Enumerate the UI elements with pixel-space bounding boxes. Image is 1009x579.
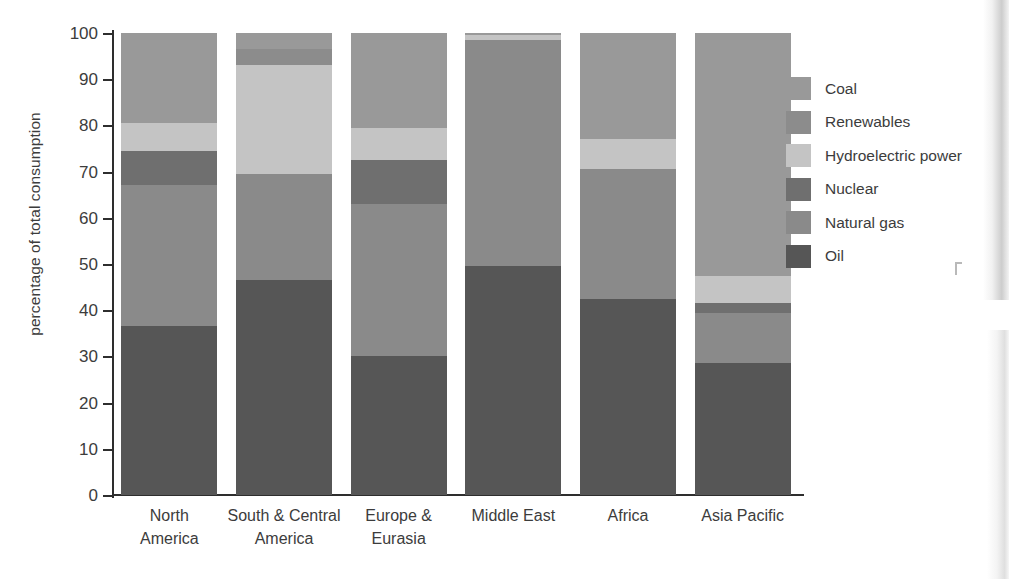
bar-segment-natural-gas	[236, 174, 332, 280]
bar-segment-coal	[580, 33, 676, 139]
y-axis-tick-label: 90	[79, 71, 98, 88]
y-axis-tick-mark	[103, 310, 112, 312]
bar-segment-coal	[695, 33, 791, 276]
x-axis-label-line: Asia Pacific	[668, 504, 818, 527]
legend-label: Nuclear	[825, 180, 878, 198]
legend-swatch-icon	[786, 77, 811, 100]
legend-swatch-icon	[786, 178, 811, 201]
y-axis-tick-mark	[103, 403, 112, 405]
bar-segment-natural-gas	[695, 313, 791, 364]
y-axis-tick-label: 50	[79, 256, 98, 273]
x-axis-label: Asia Pacific	[668, 504, 818, 527]
x-axis-label-line: Eurasia	[324, 527, 474, 550]
bar-segment-oil	[580, 299, 676, 495]
y-axis-tick-mark	[103, 125, 112, 127]
y-axis-tick-label: 40	[79, 302, 98, 319]
bar-segment-oil	[351, 356, 447, 495]
legend-swatch-icon	[786, 144, 811, 167]
legend-label: Renewables	[825, 113, 910, 131]
legend-label: Hydroelectric power	[825, 147, 962, 165]
legend-label: Oil	[825, 247, 844, 265]
bar-segment-oil	[121, 326, 217, 495]
bar-africa	[580, 33, 676, 495]
bar-north-america	[121, 33, 217, 495]
bar-segment-hydroelectric-power	[236, 65, 332, 174]
legend-swatch-icon	[786, 211, 811, 234]
bar-segment-nuclear	[351, 160, 447, 204]
y-axis-tick-label: 30	[79, 348, 98, 365]
y-axis-label: percentage of total consumption	[26, 74, 44, 374]
bar-segment-nuclear	[121, 151, 217, 186]
bar-europe-eurasia	[351, 33, 447, 495]
bar-asia-pacific	[695, 33, 791, 495]
bar-segment-natural-gas	[580, 169, 676, 298]
y-axis-tick-mark	[103, 172, 112, 174]
legend-item-renewables[interactable]: Renewables	[786, 106, 996, 140]
y-axis-tick-mark	[103, 79, 112, 81]
bar-segment-hydroelectric-power	[121, 123, 217, 151]
bar-segment-natural-gas	[465, 40, 561, 266]
bar-segment-oil	[695, 363, 791, 495]
legend-swatch-icon	[786, 245, 811, 268]
y-axis-tick-mark	[103, 449, 112, 451]
y-axis-tick-label: 0	[89, 487, 98, 504]
legend-item-hydroelectric-power[interactable]: Hydroelectric power	[786, 139, 996, 173]
legend-swatch-icon	[786, 111, 811, 134]
legend-item-natural-gas[interactable]: Natural gas	[786, 206, 996, 240]
legend-item-oil[interactable]: Oil	[786, 240, 996, 274]
y-axis-tick-label: 60	[79, 209, 98, 226]
bar-middle-east	[465, 33, 561, 495]
legend: CoalRenewablesHydroelectric powerNuclear…	[786, 72, 996, 273]
bar-segment-renewables	[236, 49, 332, 65]
bar-segment-coal	[121, 33, 217, 123]
bar-segment-coal	[236, 33, 332, 49]
legend-item-nuclear[interactable]: Nuclear	[786, 173, 996, 207]
bar-segment-hydroelectric-power	[351, 128, 447, 160]
legend-label: Natural gas	[825, 214, 904, 232]
legend-label: Coal	[825, 80, 857, 98]
y-axis-tick-mark	[103, 264, 112, 266]
bar-segment-oil	[465, 266, 561, 495]
bar-segment-hydroelectric-power	[695, 276, 791, 304]
y-axis-tick-mark	[103, 495, 112, 497]
legend-item-coal[interactable]: Coal	[786, 72, 996, 106]
plot-area: 0102030405060708090100	[112, 33, 800, 495]
stacked-bar-chart: percentage of total consumption 01020304…	[0, 0, 800, 579]
y-axis-tick-label: 70	[79, 163, 98, 180]
page-scan-edge-bottom	[987, 330, 1009, 579]
bar-segment-natural-gas	[351, 204, 447, 356]
y-axis-tick-mark	[103, 356, 112, 358]
bar-segment-nuclear	[695, 303, 791, 312]
y-axis-tick-mark	[103, 33, 112, 35]
y-axis-tick-label: 10	[79, 440, 98, 457]
bar-south-central-america	[236, 33, 332, 495]
y-axis-tick-label: 20	[79, 394, 98, 411]
bar-segment-coal	[351, 33, 447, 128]
bar-segment-hydroelectric-power	[580, 139, 676, 169]
y-axis-tick-label: 80	[79, 117, 98, 134]
bar-segment-oil	[236, 280, 332, 495]
bar-segment-natural-gas	[121, 185, 217, 326]
y-axis-tick-label: 100	[70, 25, 98, 42]
y-axis-tick-mark	[103, 218, 112, 220]
